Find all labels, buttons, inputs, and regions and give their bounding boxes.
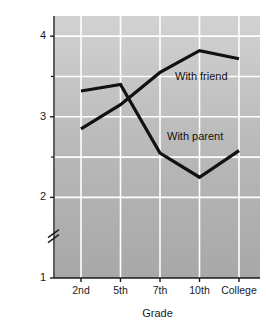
series-annotation: With parent [167,130,223,142]
y-tick-label: 4 [26,30,46,41]
plot-area [55,16,260,278]
y-tick-label: 1 [26,272,46,283]
x-tick-label: College [209,285,266,296]
y-tick-label: 2 [26,191,46,202]
series-annotation: With friend [175,70,228,82]
data-lines [55,16,260,278]
y-tick-label: 3 [26,111,46,122]
y-axis-title: Self-disclosure in conversation score [0,0,12,30]
chart-figure: Self-disclosure in conversation score 12… [0,0,266,328]
x-axis-title: Grade [55,307,260,319]
